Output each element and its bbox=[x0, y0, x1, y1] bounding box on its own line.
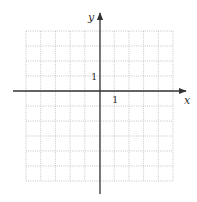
coordinate-plane: x y 1 1 bbox=[0, 0, 197, 202]
y-unit-label: 1 bbox=[91, 71, 97, 82]
y-axis-label: y bbox=[87, 11, 95, 24]
x-axis-label: x bbox=[184, 94, 191, 107]
x-unit-label: 1 bbox=[112, 94, 118, 105]
